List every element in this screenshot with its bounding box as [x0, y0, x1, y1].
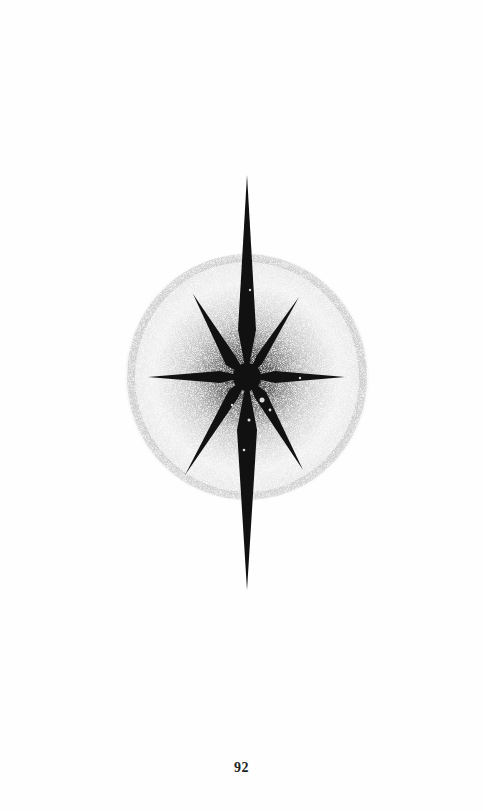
book-page: 92	[0, 0, 483, 811]
star-ornament-icon	[0, 0, 483, 811]
page-number: 92	[0, 760, 483, 776]
